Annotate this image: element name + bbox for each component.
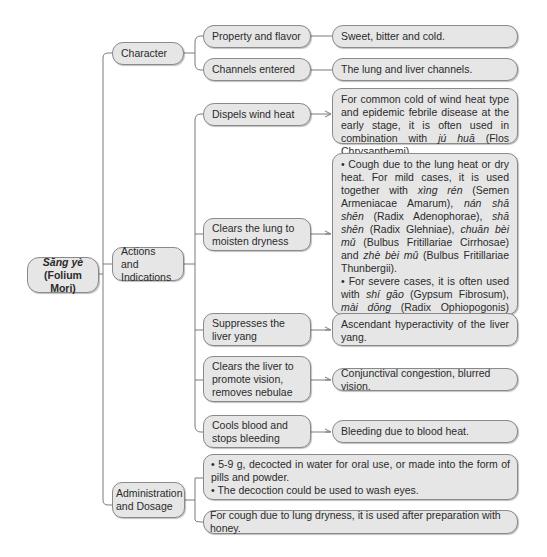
detail-property-flavor: Sweet, bitter and cold. xyxy=(332,25,518,48)
detail-honey-preparation: For cough due to lung dryness, it is use… xyxy=(203,510,518,534)
node-label: Dispels wind heat xyxy=(212,108,294,121)
detail-clears-lung: • Cough due to the lung heat or dry heat… xyxy=(332,153,518,315)
node-label: Suppresses the liver yang xyxy=(212,317,302,343)
branch-character: Character xyxy=(112,42,184,65)
detail-channels-entered: The lung and liver channels. xyxy=(332,58,518,81)
detail-text: (Gypsum Fibrosum), xyxy=(404,288,509,300)
detail-text: The lung and liver channels. xyxy=(341,63,472,76)
bullet-mild-cases: • Cough due to the lung heat or dry heat… xyxy=(341,158,509,275)
node-label: Clears the liver to promote vision, remo… xyxy=(212,360,302,399)
detail-cools-blood: Bleeding due to blood heat. xyxy=(332,420,518,443)
node-clears-lung: Clears the lung to moisten dryness xyxy=(203,218,311,251)
detail-text: Bleeding due to blood heat. xyxy=(341,425,469,438)
detail-text: (Radix Glehniae), xyxy=(364,223,461,235)
node-label: Channels entered xyxy=(212,63,295,76)
detail-dispels-wind-heat: For common cold of wind heat type and ep… xyxy=(332,88,518,144)
detail-suppresses-liver-yang: Ascendant hyperactivity of the liver yan… xyxy=(332,313,518,346)
detail-text: For cough due to lung dryness, it is use… xyxy=(210,509,511,535)
node-dispels-wind-heat: Dispels wind heat xyxy=(203,103,311,126)
detail-text: Sweet, bitter and cold. xyxy=(341,30,445,43)
node-label: Cools blood and stops bleeding xyxy=(212,419,302,445)
bullet-dosage: • 5-9 g, decocted in water for oral use,… xyxy=(211,458,510,484)
branch-label: Actions and Indications xyxy=(121,245,175,284)
herb-pinyin: jú huā xyxy=(438,132,475,144)
herb-pinyin: mài dōng xyxy=(341,301,391,313)
branch-actions-indications: Actions and Indications xyxy=(112,247,184,281)
node-suppresses-liver-yang: Suppresses the liver yang xyxy=(203,313,311,346)
branch-administration-dosage: Administration and Dosage xyxy=(112,482,185,518)
herb-pinyin: shí gāo xyxy=(366,288,404,300)
detail-text: Ascendant hyperactivity of the liver yan… xyxy=(341,318,509,343)
node-channels-entered: Channels entered xyxy=(203,58,311,81)
herb-pinyin: xìng rén xyxy=(418,184,463,196)
node-cools-blood: Cools blood and stops bleeding xyxy=(203,415,311,448)
branch-label: Administration and Dosage xyxy=(116,487,183,513)
detail-text: (Radix Adenophorae), xyxy=(364,210,492,222)
root-title-latin: (Folium Mori) xyxy=(32,269,94,295)
detail-text: Conjunctival congestion, blurred vision. xyxy=(341,367,509,393)
node-property-flavor: Property and flavor xyxy=(203,25,311,48)
bullet-wash-eyes: • The decoction could be used to wash ey… xyxy=(211,484,510,497)
node-clears-liver-vision: Clears the liver to promote vision, remo… xyxy=(203,356,311,402)
root-node: Sāng yè (Folium Mori) xyxy=(27,257,99,293)
herb-pinyin: zhè bèi mǔ xyxy=(363,249,418,261)
detail-dosage: • 5-9 g, decocted in water for oral use,… xyxy=(203,454,518,500)
node-label: Clears the lung to moisten dryness xyxy=(212,222,302,248)
root-title-pinyin: Sāng yè xyxy=(43,256,83,269)
branch-label: Character xyxy=(121,47,167,60)
node-label: Property and flavor xyxy=(212,30,301,43)
detail-clears-liver-vision: Conjunctival congestion, blurred vision. xyxy=(332,368,518,391)
